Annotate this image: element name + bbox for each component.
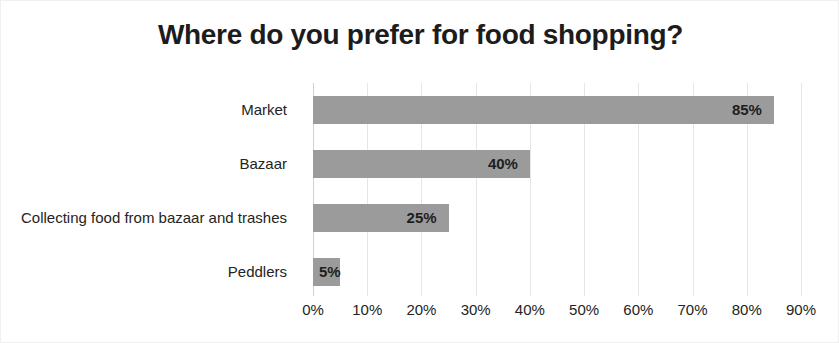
bar [313, 96, 774, 124]
category-label: Collecting food from bazaar and trashes [0, 191, 287, 245]
x-tick-label: 50% [569, 301, 599, 318]
x-tick-label: 80% [732, 301, 762, 318]
gridline-90 [801, 83, 802, 296]
x-tick-label: 0% [302, 301, 324, 318]
plot-area: 85%40%25%5% [313, 83, 801, 296]
bar-row: 25% [313, 191, 801, 245]
x-tick-label: 90% [786, 301, 816, 318]
category-label: Bazaar [0, 137, 287, 191]
category-label: Market [0, 83, 287, 137]
bar-value-label: 25% [407, 204, 437, 232]
bar-row: 85% [313, 83, 801, 137]
bar-value-label: 40% [488, 150, 518, 178]
x-tick-label: 60% [623, 301, 653, 318]
chart-title: Where do you prefer for food shopping? [1, 19, 839, 51]
bar-row: 5% [313, 245, 801, 299]
x-tick-label: 40% [515, 301, 545, 318]
bar-chart-figure: Where do you prefer for food shopping? 8… [0, 0, 839, 343]
bar-value-label: 85% [732, 96, 762, 124]
bar-value-label: 5% [319, 258, 341, 286]
x-tick-label: 30% [461, 301, 491, 318]
x-tick-label: 20% [406, 301, 436, 318]
x-tick-label: 70% [678, 301, 708, 318]
x-tick-label: 10% [352, 301, 382, 318]
bar-row: 40% [313, 137, 801, 191]
x-axis-tick-labels: 0%10%20%30%40%50%60%70%80%90% [313, 301, 801, 327]
category-label: Peddlers [0, 245, 287, 299]
